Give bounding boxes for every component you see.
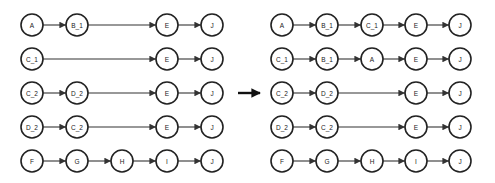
node-f: F: [271, 150, 293, 172]
left-sequence-panel: AB_1EJC_1EJC_2D_2EJD_2C_2EJFGHIJ: [21, 14, 223, 172]
left-row-4: D_2C_2EJ: [21, 116, 223, 138]
node-i: I: [156, 150, 178, 172]
node-label: J: [210, 90, 213, 97]
node-label: H: [370, 158, 375, 165]
node-c-2: C_2: [316, 116, 338, 138]
node-label: A: [280, 22, 285, 29]
node-label: F: [280, 158, 284, 165]
node-j: J: [201, 116, 223, 138]
node-label: I: [166, 158, 168, 165]
node-j: J: [201, 150, 223, 172]
node-label: C_2: [71, 124, 83, 132]
node-label: D_2: [26, 124, 38, 132]
node-label: J: [458, 56, 461, 63]
node-label: J: [210, 158, 213, 165]
node-label: C_2: [321, 124, 333, 132]
node-label: G: [324, 158, 329, 165]
node-e: E: [156, 116, 178, 138]
node-b-1: B_1: [316, 14, 338, 36]
node-label: G: [74, 158, 79, 165]
node-d-2: D_2: [316, 82, 338, 104]
node-label: C_1: [26, 56, 38, 64]
node-f: F: [21, 150, 43, 172]
node-h: H: [111, 150, 133, 172]
node-label: E: [414, 22, 419, 29]
node-label: C_1: [366, 22, 378, 30]
node-c-2: C_2: [21, 82, 43, 104]
node-j: J: [201, 82, 223, 104]
node-a: A: [21, 14, 43, 36]
node-label: E: [414, 90, 419, 97]
right-row-5: FGHIJ: [271, 150, 471, 172]
node-label: D_2: [276, 124, 288, 132]
node-label: J: [210, 22, 213, 29]
node-label: A: [30, 22, 35, 29]
node-d-2: D_2: [66, 82, 88, 104]
node-e: E: [405, 82, 427, 104]
node-label: H: [120, 158, 125, 165]
node-e: E: [405, 48, 427, 70]
node-label: J: [458, 22, 461, 29]
node-label: A: [370, 56, 375, 63]
node-label: E: [165, 22, 170, 29]
node-e: E: [156, 48, 178, 70]
node-a: A: [271, 14, 293, 36]
node-label: D_2: [71, 90, 83, 98]
node-j: J: [201, 14, 223, 36]
node-label: E: [165, 56, 170, 63]
node-b-1: B_1: [316, 48, 338, 70]
left-row-3: C_2D_2EJ: [21, 82, 223, 104]
node-h: H: [361, 150, 383, 172]
node-d-2: D_2: [21, 116, 43, 138]
node-e: E: [156, 82, 178, 104]
node-label: B_1: [321, 56, 333, 64]
node-c-1: C_1: [21, 48, 43, 70]
right-row-1: AB_1C_1EJ: [271, 14, 471, 36]
right-row-2: C_1B_1AEJ: [271, 48, 471, 70]
node-label: C_2: [26, 90, 38, 98]
node-label: D_2: [321, 90, 333, 98]
node-label: E: [165, 124, 170, 131]
node-j: J: [449, 14, 471, 36]
left-row-1: AB_1EJ: [21, 14, 223, 36]
left-row-5: FGHIJ: [21, 150, 223, 172]
node-j: J: [449, 48, 471, 70]
node-label: J: [458, 124, 461, 131]
right-row-3: C_2D_2EJ: [271, 82, 471, 104]
node-label: F: [30, 158, 34, 165]
node-c-1: C_1: [271, 48, 293, 70]
node-b-1: B_1: [66, 14, 88, 36]
node-j: J: [449, 116, 471, 138]
node-label: I: [415, 158, 417, 165]
right-row-4: D_2C_2EJ: [271, 116, 471, 138]
node-label: C_1: [276, 56, 288, 64]
node-c-1: C_1: [361, 14, 383, 36]
node-label: E: [414, 124, 419, 131]
left-row-2: C_1EJ: [21, 48, 223, 70]
node-d-2: D_2: [271, 116, 293, 138]
node-j: J: [201, 48, 223, 70]
node-i: I: [405, 150, 427, 172]
node-c-2: C_2: [66, 116, 88, 138]
node-label: J: [458, 158, 461, 165]
node-j: J: [449, 82, 471, 104]
right-sequence-panel: AB_1C_1EJC_1B_1AEJC_2D_2EJD_2C_2EJFGHIJ: [271, 14, 471, 172]
node-label: J: [210, 56, 213, 63]
node-g: G: [66, 150, 88, 172]
node-e: E: [405, 116, 427, 138]
node-label: B_1: [321, 22, 333, 30]
node-a: A: [361, 48, 383, 70]
node-label: E: [165, 90, 170, 97]
node-e: E: [156, 14, 178, 36]
node-label: J: [210, 124, 213, 131]
sequence-transform-diagram: AB_1EJC_1EJC_2D_2EJD_2C_2EJFGHIJ AB_1C_1…: [0, 0, 495, 183]
node-label: E: [414, 56, 419, 63]
node-label: C_2: [276, 90, 288, 98]
node-label: J: [458, 90, 461, 97]
node-g: G: [316, 150, 338, 172]
node-e: E: [405, 14, 427, 36]
node-c-2: C_2: [271, 82, 293, 104]
node-label: B_1: [71, 22, 83, 30]
node-j: J: [449, 150, 471, 172]
